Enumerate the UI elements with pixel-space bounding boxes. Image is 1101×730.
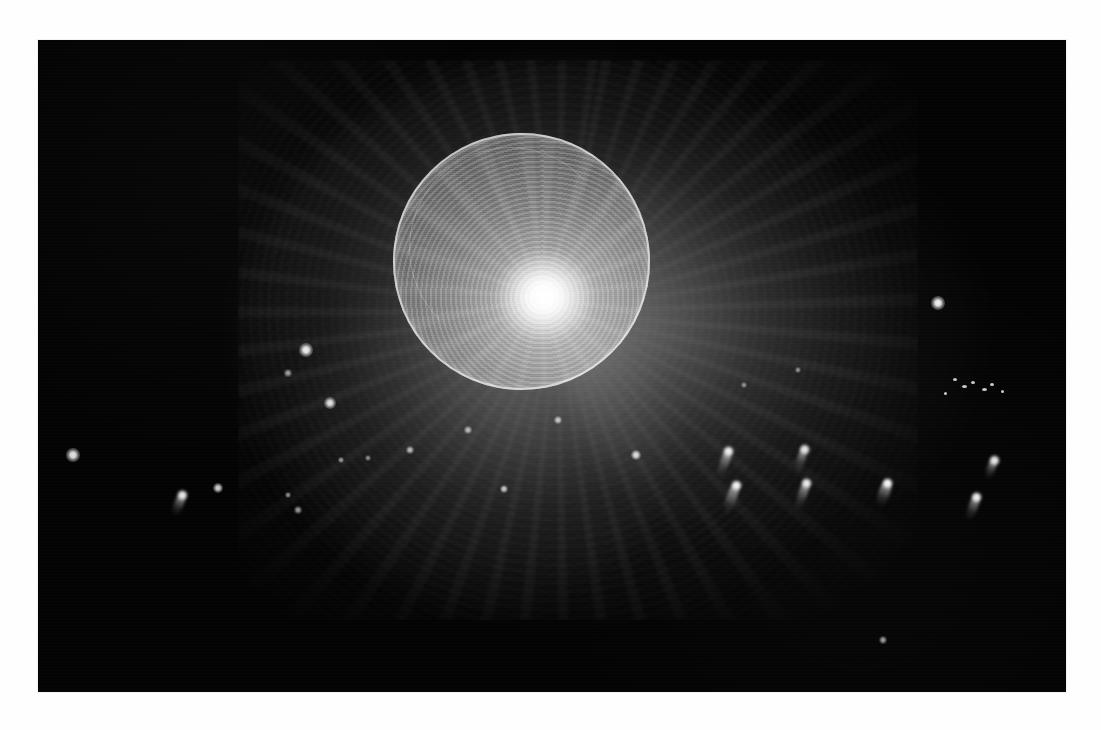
elongated-object (792, 476, 812, 511)
point-source (500, 485, 508, 493)
halo-outer (238, 60, 898, 620)
point-source (464, 426, 471, 433)
sphere-inner-arc (409, 147, 611, 349)
sphere-spiral-arms (393, 133, 650, 390)
elongated-object-tail (169, 492, 186, 518)
faint-speck (962, 385, 967, 388)
point-source (631, 450, 642, 461)
faint-speck (982, 388, 987, 391)
elongated-object-tail (874, 480, 893, 508)
elongated-object-head (969, 490, 983, 504)
point-source (406, 446, 413, 453)
point-source (284, 369, 291, 376)
elongated-object-head (880, 476, 894, 490)
point-source (795, 367, 802, 374)
elongated-object (964, 490, 983, 521)
elongated-object (983, 454, 999, 481)
sphere-raster-lines (393, 133, 650, 390)
point-source (338, 457, 345, 464)
point-source (554, 416, 562, 424)
halo-lower-left (288, 290, 668, 610)
point-source (365, 455, 371, 461)
elongated-object (793, 443, 810, 474)
astronomical-plate (38, 40, 1066, 692)
central-sphere (393, 133, 650, 390)
point-source (285, 492, 292, 499)
point-source (213, 483, 223, 493)
point-source (931, 296, 946, 311)
elongated-object-head (987, 453, 1001, 467)
point-source (299, 343, 313, 357)
sphere-core-glow (500, 255, 592, 337)
faint-speck (953, 378, 957, 381)
elongated-object-head (729, 478, 743, 492)
elongated-object (169, 488, 188, 517)
elongated-object (874, 476, 895, 508)
sphere-concentric-rings (393, 133, 650, 390)
faint-speck (990, 383, 994, 386)
elongated-object-tail (983, 457, 998, 480)
elongated-object-tail (793, 447, 809, 474)
sphere-body (393, 133, 650, 390)
elongated-object-head (721, 444, 735, 458)
point-source (879, 636, 887, 644)
halo-filaments (238, 60, 918, 620)
faint-speck (944, 392, 947, 395)
elongated-object-tail (714, 448, 733, 479)
plate-grain-texture (38, 40, 1066, 692)
elongated-object-tail (964, 494, 981, 522)
elongated-object (721, 478, 743, 515)
elongated-object-head (797, 442, 811, 456)
faint-speck (971, 381, 975, 384)
halo-right-wing (558, 120, 978, 540)
faint-speck (1001, 390, 1004, 393)
sphere-limb-rim (393, 133, 650, 390)
elongated-object (714, 444, 734, 479)
point-source (741, 382, 747, 388)
elongated-object-tail (721, 482, 741, 515)
elongated-object-tail (792, 480, 811, 511)
point-source (324, 397, 336, 409)
point-source (66, 448, 79, 461)
elongated-object-head (799, 476, 813, 490)
elongated-object-head (175, 488, 189, 502)
point-source (294, 506, 301, 513)
figure-page (0, 0, 1101, 730)
